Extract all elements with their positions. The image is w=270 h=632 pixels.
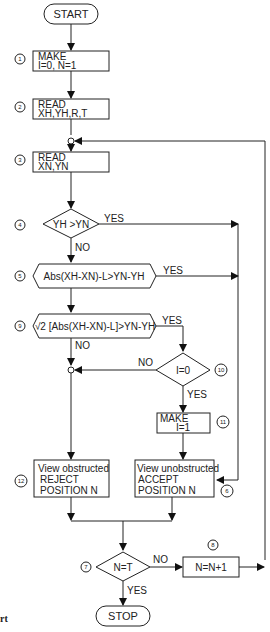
svg-text:ACCEPT: ACCEPT bbox=[138, 474, 179, 485]
start-label: START bbox=[53, 8, 88, 20]
svg-text:YES: YES bbox=[162, 315, 182, 326]
step-2-process: 2 READ XH,YH,R,T bbox=[15, 99, 109, 119]
svg-text:View unobstructed: View unobstructed bbox=[137, 463, 219, 474]
junction-node bbox=[68, 367, 74, 373]
stop-label: STOP bbox=[108, 610, 138, 622]
svg-text:N=T: N=T bbox=[113, 562, 132, 573]
step-9-condition: 9 √2 [Abs(XH-XN)-L]>YN-YH bbox=[15, 314, 156, 338]
svg-text:12: 12 bbox=[18, 478, 25, 484]
svg-text:11: 11 bbox=[220, 419, 227, 425]
svg-text:I=1: I=1 bbox=[176, 422, 191, 433]
svg-text:YES: YES bbox=[163, 265, 183, 276]
step-10-decision: I=0 10 bbox=[156, 353, 227, 386]
svg-text:NO: NO bbox=[138, 357, 153, 368]
svg-text:NO: NO bbox=[153, 554, 168, 565]
svg-text:NO: NO bbox=[75, 340, 90, 351]
svg-text:NO: NO bbox=[75, 242, 90, 253]
stop-terminal: STOP bbox=[96, 606, 150, 626]
step-5-condition: 5 Abs(XH-XN)-L>YN-YH bbox=[15, 264, 156, 288]
svg-text:√2 [Abs(XH-XN)-L]>YN-YH: √2 [Abs(XH-XN)-L]>YN-YH bbox=[35, 321, 155, 332]
svg-text:XH,YH,R,T: XH,YH,R,T bbox=[38, 108, 87, 119]
junction-node bbox=[68, 138, 74, 144]
caption-fragment: rt bbox=[0, 613, 8, 624]
svg-text:View obstructed: View obstructed bbox=[38, 463, 109, 474]
svg-text:YES: YES bbox=[127, 585, 147, 596]
flowchart: START 1 MAKE I=0, N=1 2 READ XH,YH,R,T 3… bbox=[0, 0, 270, 632]
svg-text:I=0, N=1: I=0, N=1 bbox=[38, 60, 77, 71]
step-11-process: MAKE I=1 11 bbox=[157, 413, 229, 433]
svg-text:POSITION N: POSITION N bbox=[40, 485, 98, 496]
step-1-process: 1 MAKE I=0, N=1 bbox=[15, 51, 109, 71]
step-7-decision: 7 N=T bbox=[81, 552, 150, 581]
svg-text:POSITION N: POSITION N bbox=[138, 485, 196, 496]
step-6-accept: View unobstructed ACCEPT POSITION N 6 bbox=[135, 460, 233, 497]
svg-text:YES: YES bbox=[104, 213, 124, 224]
svg-text:10: 10 bbox=[218, 367, 225, 373]
svg-text:XN,YN: XN,YN bbox=[38, 161, 69, 172]
step-4-decision: 4 YH >YN bbox=[15, 209, 99, 238]
svg-text:N=N+1: N=N+1 bbox=[195, 562, 227, 573]
step-8-process: 8 N=N+1 bbox=[183, 540, 239, 577]
svg-text:REJECT: REJECT bbox=[40, 474, 79, 485]
yes-branch bbox=[156, 326, 183, 351]
start-terminal: START bbox=[44, 4, 98, 24]
svg-text:Abs(XH-XN)-L>YN-YH: Abs(XH-XN)-L>YN-YH bbox=[44, 271, 145, 282]
svg-text:YES: YES bbox=[187, 389, 207, 400]
step-3-process: 3 READ XN,YN bbox=[15, 152, 109, 172]
svg-text:I=0: I=0 bbox=[176, 365, 191, 376]
step-12-reject: 12 View obstructed REJECT POSITION N bbox=[15, 460, 109, 497]
svg-text:YH >YN: YH >YN bbox=[53, 219, 89, 230]
